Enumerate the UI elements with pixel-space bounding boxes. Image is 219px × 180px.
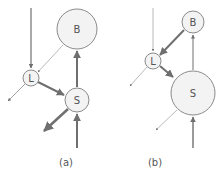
node-label: S bbox=[190, 88, 196, 99]
node-label: S bbox=[74, 95, 80, 106]
node-l: L bbox=[23, 70, 39, 86]
node-s: S bbox=[65, 88, 89, 112]
edge-b-to-l-arrow-icon bbox=[38, 45, 63, 72]
edge-l-to-output-left-arrow-icon bbox=[8, 84, 25, 101]
node-label: L bbox=[150, 56, 156, 67]
node-b: B bbox=[182, 11, 204, 33]
edge-l-to-output-left-arrow-icon bbox=[130, 67, 147, 86]
node-b: B bbox=[57, 9, 97, 49]
node-l: L bbox=[145, 53, 161, 69]
diagram-canvas: BLS(a) BLS(b) bbox=[0, 0, 219, 180]
node-label: B bbox=[190, 17, 197, 28]
node-label: L bbox=[28, 73, 34, 84]
node-s: S bbox=[171, 71, 215, 115]
node-label: B bbox=[74, 24, 81, 35]
edge-s-to-output-bottom-left-arrow-icon bbox=[156, 110, 177, 130]
panel-caption: (a) bbox=[59, 157, 73, 168]
panel-b: BLS(b) bbox=[130, 8, 215, 168]
edge-b-to-l-arrow-icon bbox=[160, 30, 184, 55]
edge-s-to-output-bottom-left-arrow-icon bbox=[44, 109, 68, 131]
edge-l-to-s-arrow-icon bbox=[160, 66, 173, 77]
panel-caption: (b) bbox=[148, 157, 162, 168]
edge-l-to-s-arrow-icon bbox=[38, 82, 64, 95]
panel-a: BLS(a) bbox=[8, 8, 97, 168]
